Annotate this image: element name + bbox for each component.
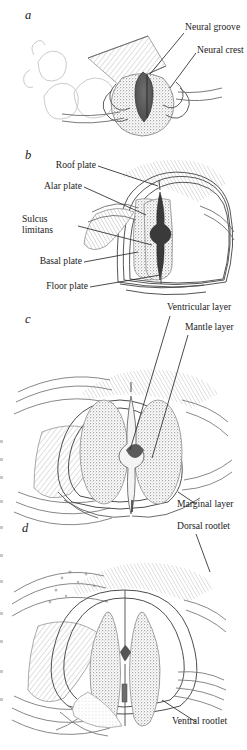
figure-neural-tube-development: a b c d Neural groove Neural crest Roof … — [0, 0, 247, 750]
label-ventral-rootlet: Ventral rootlet — [172, 716, 227, 727]
panel-c-artwork — [14, 316, 232, 525]
scan-edge-marks — [0, 430, 4, 730]
label-marginal-layer: Marginal layer — [177, 499, 234, 510]
panel-letter-d: d — [22, 521, 28, 536]
panel-letter-a: a — [25, 8, 31, 23]
panel-d-artwork — [12, 534, 226, 736]
label-sulcus-limitans: Sulcus limitans — [22, 214, 74, 235]
label-alar-plate: Alar plate — [22, 181, 82, 192]
label-ventricular-layer: Ventricular layer — [167, 302, 231, 313]
illustration-canvas — [0, 0, 247, 750]
panel-a-artwork — [24, 33, 222, 136]
panel-b-artwork — [78, 160, 234, 295]
label-mantle-layer: Mantle layer — [185, 322, 234, 333]
panel-letter-c: c — [25, 312, 31, 327]
label-basal-plate: Basal plate — [20, 256, 82, 267]
label-neural-crest: Neural crest — [197, 45, 244, 56]
leader-lines-panel-d — [162, 534, 210, 722]
label-dorsal-rootlet: Dorsal rootlet — [177, 521, 230, 532]
label-roof-plate: Roof plate — [36, 160, 96, 171]
label-neural-groove: Neural groove — [185, 22, 240, 33]
label-floor-plate: Floor plate — [26, 281, 88, 292]
panel-letter-b: b — [25, 148, 31, 163]
